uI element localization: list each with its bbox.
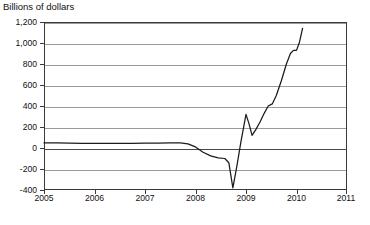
x-tick-label-2007: 2007 [125,193,165,203]
x-tick-label-2008: 2008 [176,193,216,203]
y-tick-label-1200: 1,200 [1,18,37,27]
data-series-line [44,28,303,188]
chart-container: Billions of dollars 1,200 1,000 800 600 … [0,0,370,225]
y-axis-title: Billions of dollars [3,1,74,13]
series-layer [44,22,347,190]
x-tick-label-2009: 2009 [226,193,266,203]
x-tick-label-2011: 2011 [326,193,366,203]
x-tick-label-2005: 2005 [24,193,64,203]
y-tick-label-0: 0 [1,144,37,153]
y-tick-label-200: 200 [1,123,37,132]
y-tick-label-minus200: -200 [1,165,37,174]
y-tick-label-400: 400 [1,102,37,111]
y-tick-label-600: 600 [1,81,37,90]
x-tick-label-2010: 2010 [277,193,317,203]
y-tick-label-1000: 1,000 [1,39,37,48]
y-tick-label-800: 800 [1,60,37,69]
x-tick-label-2006: 2006 [75,193,115,203]
